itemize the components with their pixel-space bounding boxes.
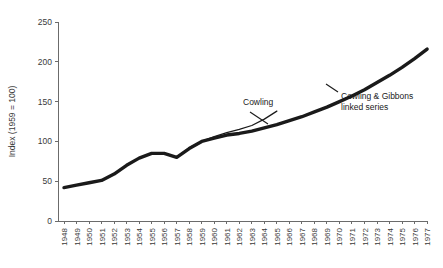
x-tick-label: 1969 — [323, 227, 332, 245]
x-tick-label: 1951 — [98, 227, 107, 245]
x-tick-label: 1963 — [248, 227, 257, 245]
annotation-cowling: Cowling — [243, 97, 274, 107]
x-tick-label: 1957 — [173, 227, 182, 245]
x-tick-label: 1970 — [335, 227, 344, 245]
y-tick-label: 0 — [47, 216, 52, 226]
x-tick-label: 1977 — [423, 227, 432, 245]
x-tick-label: 1962 — [235, 227, 244, 245]
x-tick-label: 1974 — [386, 227, 395, 245]
x-tick-label: 1972 — [361, 227, 370, 245]
x-tick-label: 1952 — [110, 227, 119, 245]
x-tick-label: 1967 — [298, 227, 307, 245]
annotation-linked-series-line1: Cowling & Gibbons — [341, 91, 413, 101]
y-axis-title-text: Index (1959 = 100) — [7, 86, 17, 158]
series-line-linked — [64, 49, 427, 188]
x-tick-label: 1964 — [260, 227, 269, 245]
x-axis: 1948194919501951195219531954195519561957… — [58, 221, 432, 246]
x-tick-label: 1961 — [223, 227, 232, 245]
y-tick-label: 200 — [38, 57, 52, 67]
y-axis-title: Index (1959 = 100) — [7, 86, 17, 158]
y-tick-label: 250 — [38, 17, 52, 27]
x-tick-label: 1949 — [73, 227, 82, 245]
x-tick-label: 1975 — [398, 227, 407, 245]
x-tick-label: 1973 — [373, 227, 382, 245]
chart-container: 050100150200250 194819491950195119521953… — [0, 0, 443, 268]
y-tick-label: 100 — [38, 136, 52, 146]
x-tick-label: 1948 — [60, 227, 69, 245]
x-tick-label: 1953 — [123, 227, 132, 245]
y-axis: 050100150200250 — [38, 17, 58, 226]
x-tick-label: 1968 — [310, 227, 319, 245]
x-tick-label: 1955 — [148, 227, 157, 245]
y-tick-label: 50 — [43, 176, 53, 186]
x-tick-label: 1966 — [285, 227, 294, 245]
x-tick-label: 1976 — [411, 227, 420, 245]
x-tick-label: 1956 — [160, 227, 169, 245]
x-tick-label: 1958 — [185, 227, 194, 245]
annotation-leader-linked-series — [326, 84, 338, 92]
data-series-group — [64, 49, 427, 188]
x-tick-label: 1965 — [273, 227, 282, 245]
annotation-group: CowlingCowling & Gibbonslinked series — [243, 84, 413, 124]
x-tick-label: 1959 — [198, 227, 207, 245]
x-tick-label: 1954 — [135, 227, 144, 245]
x-tick-label: 1950 — [85, 227, 94, 245]
x-tick-label: 1960 — [210, 227, 219, 245]
y-tick-label: 150 — [38, 97, 52, 107]
x-tick-label: 1971 — [348, 227, 357, 245]
line-chart: 050100150200250 194819491950195119521953… — [0, 0, 443, 268]
annotation-linked-series-line2: linked series — [341, 102, 388, 112]
